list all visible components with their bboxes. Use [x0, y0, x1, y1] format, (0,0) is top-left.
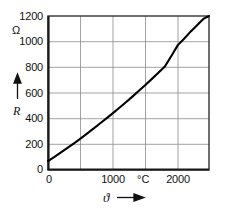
- x-axis-variable: ϑ: [103, 191, 109, 204]
- x-tick-label-2000: 2000: [160, 174, 196, 185]
- y-tick-label-200: 200: [6, 139, 43, 150]
- y-tick-label-600: 600: [6, 88, 43, 99]
- horizontal-gridlines: [48, 42, 209, 145]
- x-axis-unit: °C: [137, 174, 149, 185]
- x-tick-label-1000: 1000: [95, 174, 131, 185]
- y-axis-unit: Ω: [12, 25, 20, 36]
- y-tick-label-800: 800: [6, 62, 43, 73]
- y-axis-variable: R: [13, 105, 20, 117]
- y-tick-label-0: 0: [6, 164, 43, 175]
- resistance-temperature-chart: 1200 1000 800 600 400 200 0 Ω R 0 1000 2…: [0, 0, 225, 213]
- y-tick-label-1200: 1200: [6, 11, 43, 22]
- y-tick-label-400: 400: [6, 113, 43, 124]
- y-tick-label-1000: 1000: [6, 36, 43, 47]
- x-axis-arrow-icon: [117, 194, 144, 201]
- x-tick-label-0: 0: [41, 174, 57, 185]
- resistance-curve: [48, 16, 209, 161]
